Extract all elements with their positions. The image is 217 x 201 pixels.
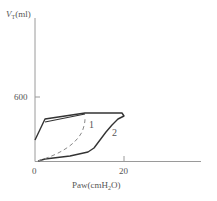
pv-loop-chart: 1 2 600 0 20 VT(ml) Paw(cmH2O) (0, 0, 217, 201)
curve-1-label: 1 (89, 119, 94, 130)
x-axis-title: Paw(cmH2O) (72, 180, 121, 191)
y-tick-label-600: 600 (14, 92, 28, 102)
curve-2-loop (35, 113, 124, 161)
y-axis-title: VT(ml) (6, 9, 31, 20)
origin-label: 0 (32, 166, 37, 176)
x-tick-label-20: 20 (119, 166, 129, 176)
curve-2-label: 2 (112, 127, 117, 138)
